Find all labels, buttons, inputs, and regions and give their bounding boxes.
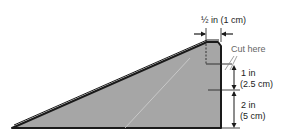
top-width-label: ½ in (1 cm) [201, 15, 246, 25]
upper-arrow-bottom [232, 85, 237, 90]
lower-height-label-cm: (5 cm) [240, 111, 266, 121]
cut-here-label: Cut here [231, 44, 266, 54]
arrow-left-head [201, 32, 206, 37]
arrow-right-head [221, 32, 226, 37]
lower-arrow-bottom [232, 123, 237, 128]
lower-arrow-top [232, 91, 237, 96]
upper-height-label-cm: (2.5 cm) [240, 79, 273, 89]
wedge-shape [12, 42, 221, 128]
lower-height-label-in: 2 in [241, 100, 256, 110]
upper-height-label-in: 1 in [241, 68, 256, 78]
